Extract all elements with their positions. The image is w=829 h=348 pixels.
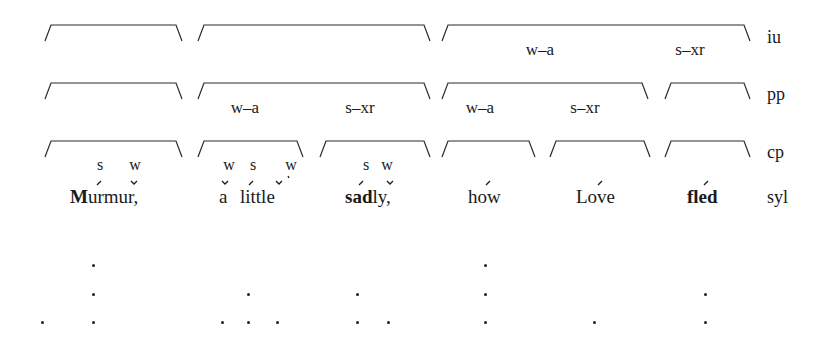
grid-dot (593, 321, 596, 324)
acute-accent-icon (704, 181, 708, 185)
grid-dot (247, 293, 250, 296)
acute-accent-icon (598, 181, 602, 185)
grid-dot (41, 321, 44, 324)
breve-icon (131, 181, 137, 184)
grid-dot (387, 321, 390, 324)
acute-accent-icon (97, 181, 101, 185)
grid-dot (356, 321, 359, 324)
grid-dot (484, 321, 487, 324)
breve-icon (387, 181, 393, 184)
grid-dot (276, 321, 279, 324)
acute-accent-icon (249, 181, 253, 185)
grave-mark-icon (288, 176, 289, 178)
grid-dot (247, 321, 250, 324)
grid-dot (704, 293, 707, 296)
grid-dot (356, 293, 359, 296)
grid-dot (484, 264, 487, 267)
grid-dot (221, 321, 224, 324)
grid-dot (704, 321, 707, 324)
breve-icon (222, 181, 228, 184)
grid-dot (92, 293, 95, 296)
breve-icon (276, 181, 282, 184)
grid-dot (484, 293, 487, 296)
grid-dot (92, 264, 95, 267)
acute-accent-icon (486, 181, 490, 185)
grid-dot (92, 321, 95, 324)
acute-accent-icon (359, 181, 363, 185)
